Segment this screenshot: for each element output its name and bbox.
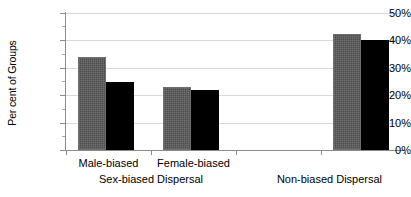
y-tick-mark-30	[60, 68, 65, 69]
y-tick-mark-10	[60, 123, 65, 124]
plot-area	[66, 13, 406, 150]
x-tick-mark-1	[151, 150, 152, 155]
y-tick-minor-35	[62, 54, 65, 55]
y-tick-minor-15	[62, 109, 65, 110]
y-tick-mark-40	[60, 40, 65, 41]
x-tick-mark-3	[321, 150, 322, 155]
y-tick-label-50: 50%	[363, 8, 411, 19]
y-tick-minor-5	[62, 136, 65, 137]
x-tick-mark-0	[66, 150, 67, 155]
y-tick-label-0: 0%	[363, 145, 411, 156]
y-axis-line	[65, 12, 66, 151]
y-tick-label-30: 30%	[363, 63, 411, 74]
y-tick-mark-50	[60, 13, 65, 14]
category-label-female-biased: Female-biased	[151, 157, 236, 170]
bar-female-biased-black	[191, 90, 219, 150]
bar-chart-figure: Per cent of Groups 50% 40% 30% 20% 10% 0…	[0, 0, 411, 197]
y-tick-mark-20	[60, 95, 65, 96]
group-label-sex-biased-dispersal: Sex-biased Dispersal	[66, 173, 236, 186]
bar-male-biased-black	[106, 82, 134, 151]
y-tick-minor-25	[62, 81, 65, 82]
y-tick-label-10: 10%	[363, 118, 411, 129]
y-tick-label-40: 40%	[363, 35, 411, 46]
x-tick-mark-2	[236, 150, 237, 155]
y-tick-mark-0	[60, 150, 65, 151]
category-label-male-biased: Male-biased	[66, 157, 151, 170]
y-tick-label-20: 20%	[363, 90, 411, 101]
y-tick-minor-45	[62, 26, 65, 27]
bar-non-biased-gray	[333, 34, 361, 150]
group-label-non-biased-dispersal: Non-biased Dispersal	[252, 173, 407, 186]
y-axis-title: Per cent of Groups	[6, 8, 24, 158]
gridline-50	[66, 13, 406, 14]
bar-female-biased-gray	[163, 87, 191, 150]
bar-male-biased-gray	[78, 57, 106, 150]
x-tick-mark-4	[405, 150, 406, 155]
